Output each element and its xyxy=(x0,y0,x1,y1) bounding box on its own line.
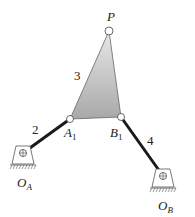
joint-p xyxy=(105,27,113,35)
ground-pivot-ob xyxy=(150,169,176,192)
ground-pivot-oa xyxy=(10,146,36,169)
label-b1: B1 xyxy=(110,125,122,142)
label-ob: OB xyxy=(158,198,173,215)
label-link-3: 3 xyxy=(74,68,81,83)
label-oa: OA xyxy=(17,175,32,192)
label-link-4: 4 xyxy=(147,133,154,148)
rocker-link-4 xyxy=(121,117,163,176)
four-bar-linkage-diagram: P 3 2 4 A1 B1 OA OB xyxy=(0,0,195,217)
label-link-2: 2 xyxy=(32,122,39,137)
joint-a1 xyxy=(67,116,74,123)
label-a1: A1 xyxy=(63,125,76,142)
joint-b1 xyxy=(118,114,125,121)
label-p: P xyxy=(106,9,115,24)
